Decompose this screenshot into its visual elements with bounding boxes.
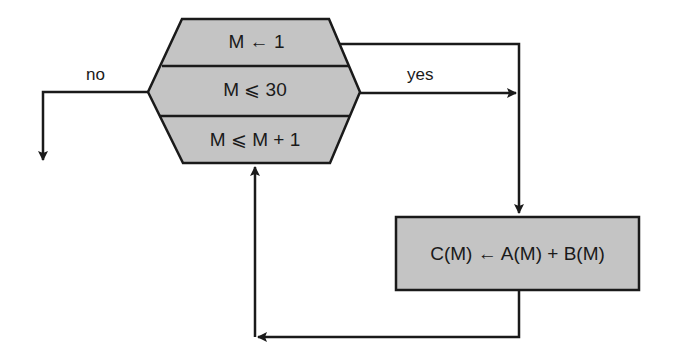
flowchart-canvas (0, 0, 674, 364)
return-line-right (258, 290, 519, 337)
test-cell-text: M ⩽ 30 (160, 80, 350, 99)
increment-cell-text: M ⩽ M + 1 (170, 130, 340, 149)
init-cell-text: M ← 1 (183, 32, 330, 51)
no-label: no (86, 66, 105, 83)
no-branch-line (43, 92, 148, 160)
yes-label: yes (407, 66, 433, 83)
process-text: C(M) ← A(M) + B(M) (396, 244, 639, 263)
